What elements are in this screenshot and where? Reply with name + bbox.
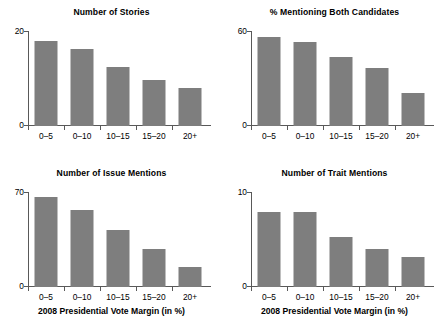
x-tick — [172, 126, 173, 130]
y-tick-label-max: 20 — [15, 27, 24, 35]
bar — [330, 237, 353, 287]
panel-title: Number of Stories — [0, 7, 223, 18]
bar-slot — [28, 192, 64, 287]
x-tick-label: 20+ — [395, 292, 431, 302]
plot-area: 70 0 — [28, 192, 208, 287]
x-tick-label: 10–15 — [323, 131, 359, 141]
bar — [294, 212, 317, 287]
x-tick — [100, 287, 101, 291]
x-axis-title: 2008 Presidential Vote Margin (in %) — [0, 306, 223, 317]
x-tick-labels: 0–5 0–10 10–15 15–20 20+ — [28, 131, 208, 143]
bar-slot — [251, 31, 287, 126]
bar — [330, 57, 353, 126]
x-tick — [136, 287, 137, 291]
bar-slot — [359, 31, 395, 126]
bar-slot — [64, 31, 100, 126]
bar-series — [28, 31, 208, 126]
x-tick — [359, 126, 360, 130]
bar-slot — [100, 31, 136, 126]
x-tick-label: 20+ — [172, 131, 208, 141]
bar-slot — [287, 31, 323, 126]
y-tick-label-max: 70 — [15, 188, 24, 196]
x-tick-label: 10–15 — [100, 131, 136, 141]
bar — [258, 212, 281, 287]
x-tick — [323, 287, 324, 291]
bar — [402, 257, 425, 287]
bar-slot — [323, 31, 359, 126]
x-tick-label: 0–5 — [28, 131, 64, 141]
bar — [143, 80, 166, 126]
x-tick-label: 0–10 — [64, 292, 100, 302]
bar — [258, 37, 281, 126]
bar — [35, 197, 58, 287]
x-tick-label: 0–5 — [251, 292, 287, 302]
figure-multi-panel-bar-charts: Number of Stories 20 0 0–5 0–10 10–15 15… — [0, 0, 447, 323]
bar — [143, 249, 166, 287]
y-tick-label-min: 0 — [242, 282, 247, 290]
x-tick — [251, 287, 252, 291]
x-tick-label: 0–5 — [28, 292, 64, 302]
bar-series — [251, 192, 431, 287]
x-tick-labels: 0–5 0–10 10–15 15–20 20+ — [251, 292, 431, 304]
bar-slot — [323, 192, 359, 287]
x-tick-label: 0–5 — [251, 131, 287, 141]
x-tick-label: 15–20 — [136, 292, 172, 302]
x-tick — [395, 287, 396, 291]
y-tick-label-max: 60 — [238, 27, 247, 35]
x-tick — [323, 126, 324, 130]
y-tick-label-min: 0 — [19, 121, 24, 129]
x-tick — [136, 126, 137, 130]
x-tick-label: 20+ — [172, 292, 208, 302]
x-tick-label: 20+ — [395, 131, 431, 141]
panel-title: % Mentioning Both Candidates — [223, 7, 446, 18]
bar-slot — [28, 31, 64, 126]
panel-title: Number of Issue Mentions — [0, 168, 223, 179]
panel-pct-mentioning-both-candidates: % Mentioning Both Candidates 60 0 0–5 0–… — [223, 0, 446, 161]
bar — [35, 41, 58, 127]
x-tick — [359, 287, 360, 291]
x-tick — [251, 126, 252, 130]
x-tick — [287, 287, 288, 291]
x-tick-label: 15–20 — [136, 131, 172, 141]
bar — [366, 68, 389, 126]
bar — [71, 49, 94, 126]
x-tick-label: 10–15 — [323, 292, 359, 302]
bar-slot — [100, 192, 136, 287]
bar-series — [28, 192, 208, 287]
x-tick — [395, 126, 396, 130]
x-tick — [64, 287, 65, 291]
x-tick-label: 10–15 — [100, 292, 136, 302]
bar-slot — [287, 192, 323, 287]
panel-title: Number of Trait Mentions — [223, 168, 446, 179]
x-axis-title: 2008 Presidential Vote Margin (in %) — [223, 306, 446, 317]
x-tick-label: 15–20 — [359, 131, 395, 141]
bar-series — [251, 31, 431, 126]
x-tick-labels: 0–5 0–10 10–15 15–20 20+ — [28, 292, 208, 304]
bar-slot — [395, 192, 431, 287]
panel-number-of-trait-mentions: Number of Trait Mentions 10 0 0–5 0–10 1… — [223, 161, 446, 322]
bar — [179, 88, 202, 126]
bar-slot — [395, 31, 431, 126]
bar — [366, 249, 389, 287]
bar-slot — [359, 192, 395, 287]
x-tick — [64, 126, 65, 130]
bar — [71, 210, 94, 287]
x-tick — [100, 126, 101, 130]
x-tick — [287, 126, 288, 130]
x-tick-label: 0–10 — [64, 131, 100, 141]
bar — [107, 67, 130, 126]
y-tick-label-max: 10 — [238, 188, 247, 196]
x-tick-label: 0–10 — [287, 292, 323, 302]
x-tick-label: 0–10 — [287, 131, 323, 141]
plot-area: 60 0 — [251, 31, 431, 126]
bar-slot — [172, 192, 208, 287]
x-tick — [28, 287, 29, 291]
x-tick — [172, 287, 173, 291]
plot-area: 10 0 — [251, 192, 431, 287]
plot-area: 20 0 — [28, 31, 208, 126]
x-tick — [28, 126, 29, 130]
bar — [402, 93, 425, 126]
panel-number-of-stories: Number of Stories 20 0 0–5 0–10 10–15 15… — [0, 0, 223, 161]
bar-slot — [136, 192, 172, 287]
y-tick-label-min: 0 — [19, 282, 24, 290]
